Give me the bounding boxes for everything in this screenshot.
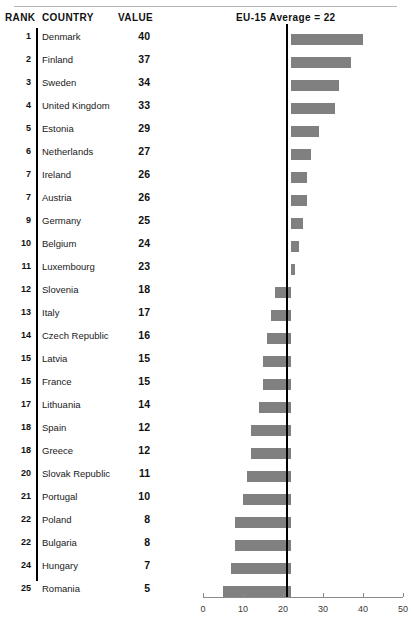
row-value: 27: [112, 145, 150, 157]
row-value: 18: [112, 283, 150, 295]
table-row: 12Slovenia18: [0, 281, 411, 304]
row-rank: 22: [0, 514, 31, 524]
bar: [231, 563, 291, 574]
bar: [291, 172, 307, 183]
bar: [223, 586, 291, 597]
row-rank: 18: [0, 445, 31, 455]
row-value: 26: [112, 191, 150, 203]
row-value: 34: [112, 76, 150, 88]
row-value: 23: [112, 260, 150, 272]
table-row: 21Portugal10: [0, 488, 411, 511]
table-row: 18Greece12: [0, 442, 411, 465]
bar: [291, 34, 363, 45]
bar: [271, 310, 291, 321]
x-axis-line: [203, 597, 403, 598]
bar: [275, 287, 291, 298]
row-country: Romania: [42, 583, 80, 594]
row-value: 24: [112, 237, 150, 249]
table-row: 24Hungary7: [0, 557, 411, 580]
bar: [291, 57, 351, 68]
table-row: 2Finland37: [0, 51, 411, 74]
row-rank: 1: [0, 31, 31, 41]
row-country: Bulgaria: [42, 537, 77, 548]
row-rank: 6: [0, 146, 31, 156]
row-value: 33: [112, 99, 150, 111]
row-rank: 20: [0, 468, 31, 478]
table-row: 18Spain12: [0, 419, 411, 442]
table-row: 5Estonia29: [0, 120, 411, 143]
bar: [291, 195, 307, 206]
table-row: 20Slovak Republic11: [0, 465, 411, 488]
bar: [235, 540, 291, 551]
row-rank: 21: [0, 491, 31, 501]
table-row: 13Italy17: [0, 304, 411, 327]
row-rank: 24: [0, 560, 31, 570]
table-row: 22Poland8: [0, 511, 411, 534]
row-rank: 17: [0, 399, 31, 409]
x-axis-tick-label: 20: [271, 604, 295, 614]
row-country: Sweden: [42, 77, 76, 88]
table-row: 3Sweden34: [0, 74, 411, 97]
table-row: 11Luxembourg23: [0, 258, 411, 281]
row-value: 12: [112, 421, 150, 433]
row-value: 17: [112, 306, 150, 318]
eu15-average-reference-line: [286, 24, 288, 597]
row-country: Italy: [42, 307, 59, 318]
row-rank: 22: [0, 537, 31, 547]
bar: [243, 494, 291, 505]
row-value: 37: [112, 53, 150, 65]
row-rank: 13: [0, 307, 31, 317]
x-axis-tick: [363, 593, 364, 597]
table-row: 17Lithuania14: [0, 396, 411, 419]
row-rank: 9: [0, 215, 31, 225]
table-row: 15Latvia15: [0, 350, 411, 373]
table-row: 7Austria26: [0, 189, 411, 212]
x-axis-tick: [243, 593, 244, 597]
row-country: Poland: [42, 514, 72, 525]
row-value: 15: [112, 375, 150, 387]
table-row: 22Bulgaria8: [0, 534, 411, 557]
bar: [291, 218, 303, 229]
row-rank: 2: [0, 54, 31, 64]
row-country: Finland: [42, 54, 73, 65]
row-country: Hungary: [42, 560, 78, 571]
chart-title: EU-15 Average = 22: [236, 12, 336, 23]
table-row: 4United Kingdom33: [0, 97, 411, 120]
row-rank: 7: [0, 169, 31, 179]
top-divider: [14, 6, 397, 7]
x-axis-tick: [283, 593, 284, 597]
table-row: 7Ireland26: [0, 166, 411, 189]
x-axis-tick-label: 30: [311, 604, 335, 614]
chart-page: RANK COUNTRY VALUE EU-15 Average = 22 1D…: [0, 0, 411, 627]
row-value: 29: [112, 122, 150, 134]
table-row: 9Germany25: [0, 212, 411, 235]
row-rank: 7: [0, 192, 31, 202]
row-value: 25: [112, 214, 150, 226]
row-value: 16: [112, 329, 150, 341]
row-value: 7: [112, 559, 150, 571]
row-country: United Kingdom: [42, 100, 110, 111]
bar: [291, 264, 295, 275]
x-axis-tick: [203, 593, 204, 597]
row-value: 5: [112, 582, 150, 594]
table-row: 25Romania5: [0, 580, 411, 603]
x-axis-tick-label: 10: [231, 604, 255, 614]
row-rank: 25: [0, 583, 31, 593]
bar: [251, 448, 291, 459]
row-rank: 14: [0, 330, 31, 340]
row-rank: 3: [0, 77, 31, 87]
table-row: 1Denmark40: [0, 28, 411, 51]
row-country: Slovak Republic: [42, 468, 110, 479]
row-country: Luxembourg: [42, 261, 95, 272]
row-country: Denmark: [42, 31, 81, 42]
row-country: Portugal: [42, 491, 77, 502]
bar: [251, 425, 291, 436]
bar: [291, 241, 299, 252]
column-header-rank: RANK: [5, 12, 36, 23]
row-rank: 5: [0, 123, 31, 133]
row-country: Spain: [42, 422, 66, 433]
bar: [291, 126, 319, 137]
row-country: Netherlands: [42, 146, 93, 157]
bar: [235, 517, 291, 528]
row-rank: 18: [0, 422, 31, 432]
